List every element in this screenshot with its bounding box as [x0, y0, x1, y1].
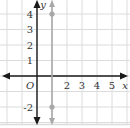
- y-tick-label: -2: [23, 102, 33, 113]
- y-axis-label: y: [39, 0, 46, 10]
- x-tick-label: 4: [94, 80, 100, 91]
- series-layer: [49, 0, 55, 125]
- y-tick-label: 3: [27, 24, 33, 35]
- origin-label: O: [26, 80, 34, 91]
- x-axis-label: x: [122, 80, 128, 91]
- y-tick-label: 2: [27, 40, 33, 51]
- y-tick-label: 1: [27, 55, 33, 66]
- x-tick-label: 5: [109, 80, 115, 91]
- coordinate-plane: 23454321-2Oxy: [0, 0, 130, 128]
- axes: [2, 0, 128, 125]
- data-point: [49, 104, 54, 109]
- data-point: [49, 11, 54, 16]
- x-tick-label: 3: [79, 80, 85, 91]
- x-axis-left-arrow-icon: [2, 73, 10, 80]
- y-tick-label: 4: [27, 9, 33, 20]
- x-tick-label: 2: [64, 80, 70, 91]
- grid: [0, 0, 130, 125]
- series-up-arrow-icon: [49, 0, 55, 7]
